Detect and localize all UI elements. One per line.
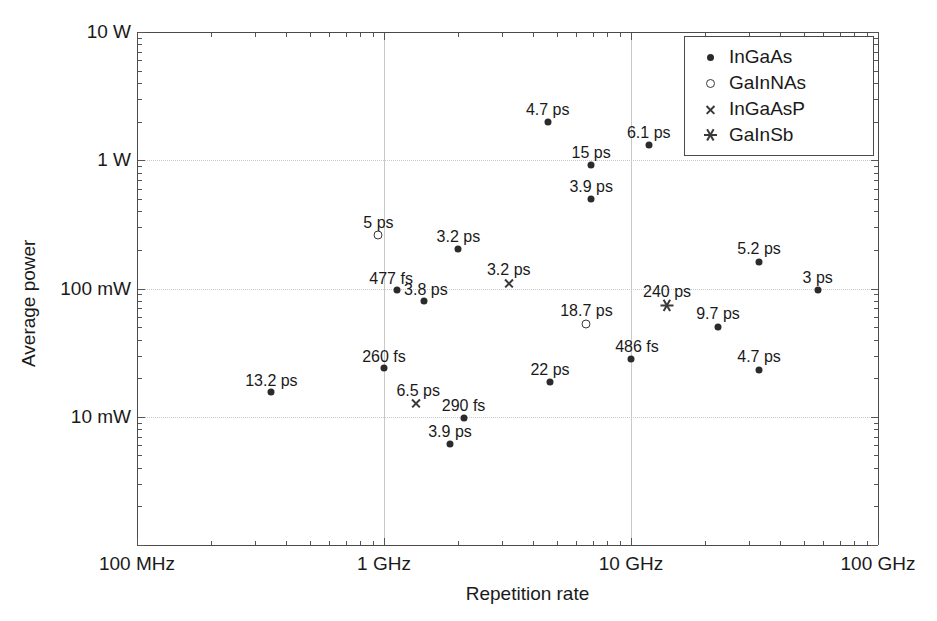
data-point-label-16: 6.1 ps: [627, 124, 671, 142]
data-point-label-13: 15 ps: [572, 144, 611, 162]
data-point-12: [582, 319, 591, 328]
right-axis-line: [878, 32, 879, 545]
legend-label: InGaAs: [729, 46, 792, 68]
y-axis-title: Average power: [18, 239, 40, 366]
x-axis-tick-top: [533, 33, 534, 37]
marker-dot-icon: [756, 259, 763, 266]
legend-label: GaInSb: [729, 124, 793, 146]
x-axis-tick-top: [607, 33, 608, 37]
data-point-7: [455, 245, 462, 252]
y-tick-label-3: 10 mW: [71, 406, 131, 428]
y-axis-tick: [138, 294, 142, 295]
data-point-label-5: 6.5 ps: [396, 382, 440, 400]
x-axis-tick-top: [384, 33, 385, 40]
y-axis-tick-right: [874, 44, 878, 45]
legend-item-gainsb[interactable]: GaInSb: [697, 122, 857, 148]
legend-item-gainnas[interactable]: GaInNAs: [697, 70, 857, 96]
x-axis-tick: [705, 541, 706, 545]
data-point-6: [446, 441, 453, 448]
y-axis-tick-right: [874, 378, 878, 379]
x-axis-tick-top: [631, 33, 632, 40]
y-axis-tick-right: [874, 327, 878, 328]
y-axis-tick-right: [874, 356, 878, 357]
x-axis-tick: [840, 541, 841, 545]
y-axis-tick: [138, 484, 142, 485]
data-point-10: [544, 118, 551, 125]
marker-dot-icon: [547, 379, 554, 386]
data-point-label-12: 18.7 ps: [560, 302, 612, 320]
y-axis-tick-right: [874, 301, 878, 302]
x-axis-tick: [255, 541, 256, 545]
y-axis-tick: [138, 32, 145, 33]
gridline-vertical: [384, 32, 385, 545]
data-point-19: [756, 367, 763, 374]
data-point-label-19: 4.7 ps: [737, 348, 781, 366]
y-axis-tick-right: [874, 506, 878, 507]
y-axis-tick: [138, 160, 145, 161]
y-axis-tick-right: [874, 60, 878, 61]
marker-dot-icon: [628, 356, 635, 363]
y-axis-tick-right: [874, 71, 878, 72]
y-axis-tick-right: [874, 189, 878, 190]
y-axis-tick-right: [874, 122, 878, 123]
x-axis-tick: [329, 541, 330, 545]
marker-dot-icon: [455, 245, 462, 252]
y-axis-tick: [138, 99, 142, 100]
x-axis-tick-top: [286, 33, 287, 37]
legend-item-ingaas[interactable]: InGaAs: [697, 44, 857, 70]
y-axis-tick: [138, 166, 142, 167]
marker-open-circle-icon: [697, 79, 723, 88]
x-axis-tick-top: [557, 33, 558, 37]
x-axis-tick-top: [346, 33, 347, 37]
y-axis-tick-right: [874, 429, 878, 430]
x-axis-tick: [576, 541, 577, 545]
marker-dot-icon: [645, 141, 652, 148]
x-tick-label-3: 100 GHz: [841, 553, 916, 575]
marker-dot-icon: [814, 287, 821, 294]
marker-cross-icon: [503, 278, 514, 289]
data-point-label-17: 240 ps: [643, 283, 691, 301]
y-axis-tick-right: [874, 340, 878, 341]
x-axis-tick-top: [878, 33, 879, 40]
marker-cross-icon: [697, 104, 723, 115]
y-axis-tick-right: [874, 180, 878, 181]
y-axis-tick: [138, 417, 145, 418]
data-point-13: [588, 161, 595, 168]
y-axis-tick: [138, 308, 142, 309]
data-point-20: [756, 259, 763, 266]
y-axis-tick: [138, 227, 142, 228]
y-axis-tick-right: [871, 289, 878, 290]
y-axis-tick-right: [874, 250, 878, 251]
y-axis-tick: [138, 429, 142, 430]
x-axis-tick: [804, 541, 805, 545]
y-axis-tick-right: [871, 417, 878, 418]
x-axis-title: Repetition rate: [466, 583, 590, 605]
y-axis-tick: [138, 122, 142, 123]
x-axis-tick: [631, 538, 632, 545]
y-axis-tick: [138, 356, 142, 357]
y-axis-tick: [138, 44, 142, 45]
marker-dot-icon: [446, 441, 453, 448]
x-axis-tick-top: [502, 33, 503, 37]
marker-dot-icon: [460, 414, 467, 421]
y-tick-label-1: 1 W: [97, 149, 131, 171]
data-point-label-14: 3.9 ps: [569, 178, 613, 196]
x-axis-tick-top: [211, 33, 212, 37]
y-axis-tick-right: [874, 83, 878, 84]
marker-dot-icon: [544, 118, 551, 125]
y-axis-tick: [138, 211, 142, 212]
y-axis-tick-right: [874, 52, 878, 53]
x-axis-tick: [557, 541, 558, 545]
y-axis-tick: [138, 317, 142, 318]
marker-dot-icon: [756, 367, 763, 374]
legend-label: GaInNAs: [729, 72, 806, 94]
x-axis-tick: [373, 541, 374, 545]
x-axis-tick: [593, 541, 594, 545]
data-point-label-1: 260 fs: [362, 348, 406, 366]
y-axis-tick: [138, 199, 142, 200]
y-axis-tick: [138, 506, 142, 507]
x-axis-tick: [384, 538, 385, 545]
y-axis-tick: [138, 437, 142, 438]
x-axis-tick-top: [593, 33, 594, 37]
legend-item-ingaasp[interactable]: InGaAsP: [697, 96, 857, 122]
